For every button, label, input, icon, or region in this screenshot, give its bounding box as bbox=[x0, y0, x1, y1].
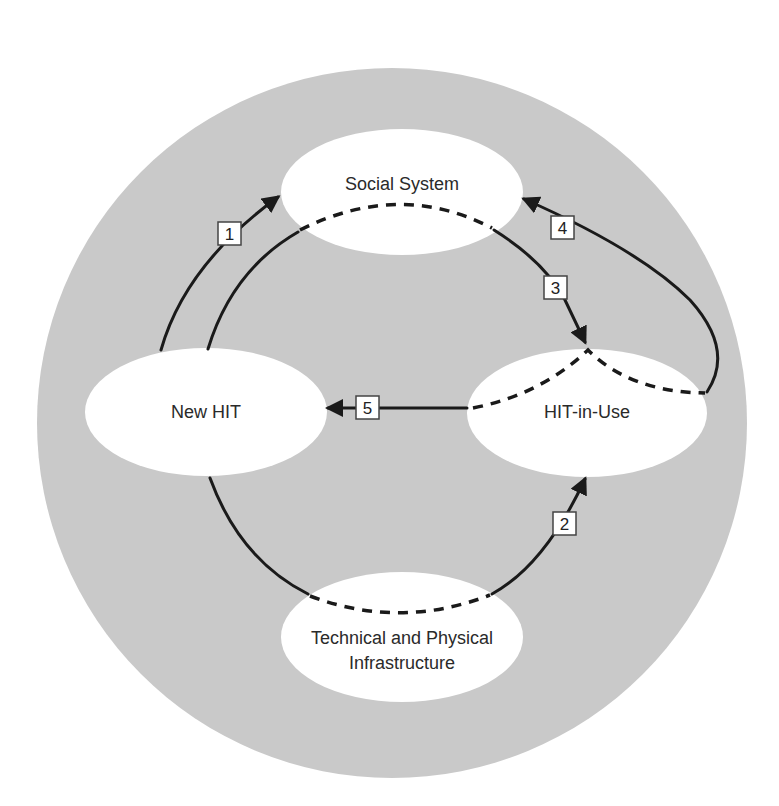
svg-text:3: 3 bbox=[551, 279, 560, 298]
svg-text:1: 1 bbox=[225, 225, 234, 244]
svg-text:2: 2 bbox=[560, 515, 569, 534]
label-new-hit: New HIT bbox=[171, 402, 241, 422]
label-infrastructure-line1: Technical and Physical bbox=[311, 628, 493, 648]
arrow-label-1: 1 bbox=[218, 222, 241, 245]
label-hit-in-use: HIT-in-Use bbox=[544, 402, 630, 422]
label-infrastructure-line2: Infrastructure bbox=[349, 653, 455, 673]
arrow-label-5: 5 bbox=[356, 396, 379, 419]
arrow-label-4: 4 bbox=[551, 216, 574, 239]
svg-text:5: 5 bbox=[363, 399, 372, 418]
sociotechnical-diagram: 1 2 3 4 5 Social System New HIT HIT-in-U… bbox=[0, 0, 779, 806]
arrow-label-3: 3 bbox=[544, 276, 567, 299]
svg-text:4: 4 bbox=[558, 219, 567, 238]
arrow-label-2: 2 bbox=[553, 512, 576, 535]
label-social-system: Social System bbox=[345, 174, 459, 194]
